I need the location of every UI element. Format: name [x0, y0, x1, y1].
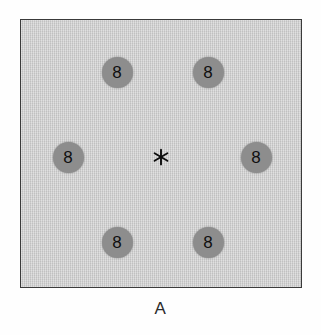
- stimulus-panel: 8 8 8 8 8 8: [20, 19, 302, 288]
- disk-digit-label: 8: [203, 233, 212, 250]
- disk-digit-label: 8: [251, 148, 260, 165]
- disk-digit-label: 8: [203, 63, 212, 80]
- stimulus-disk-middle-left[interactable]: 8: [53, 142, 84, 173]
- stimulus-disk-bottom-right[interactable]: 8: [193, 227, 224, 258]
- disk-digit-label: 8: [112, 233, 121, 250]
- stimulus-disk-middle-right[interactable]: 8: [241, 142, 272, 173]
- asterisk-icon: [150, 146, 172, 168]
- stimulus-disk-top-right[interactable]: 8: [193, 57, 224, 88]
- disk-digit-label: 8: [112, 63, 121, 80]
- panel-label: A: [0, 299, 321, 319]
- figure-root: 8 8 8 8 8 8: [0, 0, 321, 335]
- stimulus-disk-top-left[interactable]: 8: [102, 57, 133, 88]
- stimulus-disk-bottom-left[interactable]: 8: [102, 227, 133, 258]
- disk-digit-label: 8: [63, 148, 72, 165]
